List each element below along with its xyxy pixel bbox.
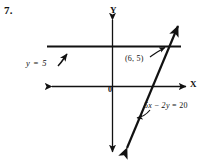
y-equals-5-leader-arrow <box>58 54 67 66</box>
equation-right-side: 20 <box>179 101 188 110</box>
intersection-point-label: (6, 5) <box>125 55 144 63</box>
equation-operator: − <box>154 101 159 110</box>
intersection-leader-arrow <box>150 48 165 58</box>
equation-term-2: 2y <box>162 101 170 110</box>
coordinate-graph <box>0 0 210 162</box>
graph-figure: 7. Y X 0 y = 5 (6, 5) 5x − 2y = 20 <box>0 0 210 162</box>
equation-equals-sign: = <box>172 101 177 110</box>
x-axis-label: X <box>190 80 197 89</box>
problem-number: 7. <box>4 5 13 16</box>
origin-label: 0 <box>108 86 112 94</box>
y-axis-label: Y <box>110 6 117 15</box>
equation-term-1: 5x <box>144 101 152 110</box>
horizontal-line-equation-label: y = 5 <box>26 59 47 68</box>
sloped-line-equation-label: 5x − 2y = 20 <box>144 102 188 110</box>
